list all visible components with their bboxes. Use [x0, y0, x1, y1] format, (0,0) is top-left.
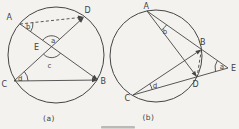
diagram-a: A D C B E b a c d (a)	[2, 6, 107, 123]
angle-arc-c	[44, 53, 61, 58]
vertex-label-d: D	[193, 80, 199, 89]
vertex-label-a: A	[144, 2, 150, 11]
angle-label-d: d	[153, 82, 157, 90]
vertex-label-e: E	[231, 64, 236, 73]
vertex-label-a: A	[7, 13, 13, 22]
angle-arc-b	[31, 23, 33, 32]
figure-canvas: A D C B E b a c d (a) A B C D E b	[0, 0, 239, 129]
vertex-label-d: D	[85, 6, 91, 15]
angle-label-a: a	[51, 37, 55, 45]
arrowhead-cb-icon	[195, 49, 201, 54]
arrowhead-ad-icon	[192, 71, 197, 77]
angle-arc-a	[215, 61, 217, 72]
angle-label-d: d	[18, 75, 22, 83]
caption-b: (b)	[142, 113, 154, 122]
chord-cb	[14, 80, 93, 81]
vertex-label-b: B	[200, 38, 206, 47]
secant-cde	[133, 68, 228, 95]
scan-smudge	[101, 126, 135, 129]
angle-label-b: b	[26, 23, 31, 31]
angle-label-c: c	[48, 62, 52, 70]
vertex-label-e: E	[34, 43, 39, 52]
chord-cd	[14, 20, 81, 81]
caption-a: (a)	[43, 114, 55, 123]
vertex-label-c: C	[2, 80, 8, 89]
vertex-label-b: B	[101, 77, 107, 86]
angle-label-b: b	[163, 28, 168, 36]
circle-a	[8, 7, 104, 103]
geometry-figure: A D C B E b a c d (a) A B C D E b	[0, 0, 239, 129]
angle-arc-d	[24, 72, 28, 81]
diagram-b: A B C D E b a d (b)	[110, 2, 236, 122]
chord-ad	[147, 11, 193, 72]
secant-abe	[147, 11, 228, 68]
vertex-label-c: C	[125, 94, 131, 103]
chord-cb	[133, 53, 197, 95]
angle-label-a: a	[220, 63, 224, 71]
chord-ab	[20, 24, 94, 77]
